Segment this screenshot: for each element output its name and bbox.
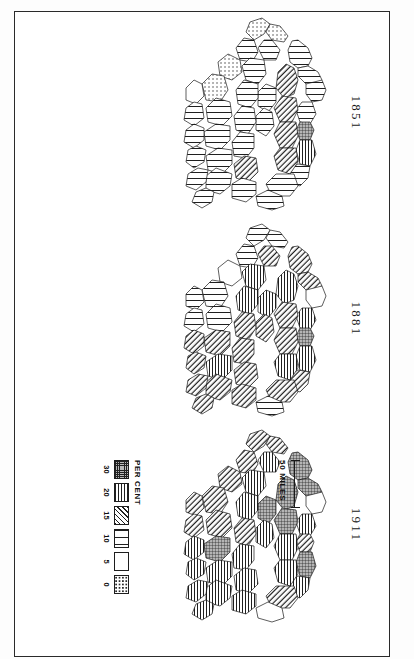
legend-label-5: 5 [102, 552, 111, 571]
map-figure-1851 [174, 10, 342, 216]
map-year-label-1881: 1881 [348, 216, 364, 422]
map-panel-1881: 1881 [21, 216, 394, 422]
page-canvas: 1851 [0, 0, 414, 659]
map-figure-1881 [174, 216, 342, 422]
legend-swatch-list: 30 20 15 10 5 [102, 460, 129, 594]
legend-swatch-0 [114, 575, 129, 594]
legend-item-15: 15 [102, 506, 129, 525]
legend-item-20: 20 [102, 483, 129, 502]
legend-label-0: 0 [102, 575, 111, 594]
scale-bar-group: 50 MILES [260, 460, 306, 580]
legend: PER CENT 30 20 15 10 [78, 460, 142, 630]
legend-label-30: 30 [102, 460, 111, 479]
legend-swatch-5 [114, 552, 129, 571]
legend-swatch-20 [114, 483, 129, 502]
legend-swatch-15 [114, 506, 129, 525]
legend-item-30: 30 [102, 460, 129, 479]
legend-item-10: 10 [102, 529, 129, 548]
legend-title: PER CENT [133, 460, 142, 505]
legend-label-10: 10 [102, 529, 111, 548]
legend-label-15: 15 [102, 506, 111, 525]
scale-bar [291, 460, 300, 508]
map-panel-1851: 1851 [21, 10, 394, 216]
legend-label-20: 20 [102, 483, 111, 502]
figure-sheet: 1851 [21, 8, 394, 651]
scale-label: 50 MILES [278, 460, 287, 501]
map-figure-1911 [174, 422, 342, 628]
map-year-label-1911: 1911 [348, 422, 364, 628]
legend-item-0: 0 [102, 575, 129, 594]
legend-swatch-10 [114, 529, 129, 548]
map-panel-1911: 1911 [21, 422, 394, 628]
legend-swatch-30 [114, 460, 129, 479]
legend-item-5: 5 [102, 552, 129, 571]
map-year-label-1851: 1851 [348, 10, 364, 216]
